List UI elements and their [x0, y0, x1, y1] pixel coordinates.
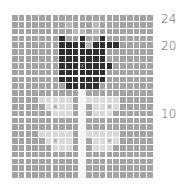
grid-cell — [53, 70, 59, 76]
grid-cell — [19, 172, 25, 178]
grid-cell — [80, 56, 86, 62]
grid-cell — [100, 49, 106, 55]
grid-cell — [19, 138, 25, 144]
grid-cell — [39, 131, 45, 137]
grid-cell — [147, 90, 153, 96]
grid-cell — [53, 124, 59, 130]
grid-cell — [59, 97, 65, 103]
grid-cell — [120, 83, 126, 89]
grid-cell — [93, 70, 99, 76]
grid-cell — [66, 138, 72, 144]
grid-cell — [26, 63, 32, 69]
grid-cell — [73, 77, 79, 83]
grid-cell: × — [107, 138, 113, 144]
grid-cell — [59, 49, 65, 55]
grid-cell — [59, 165, 65, 171]
grid-cell — [113, 124, 119, 130]
grid-cell — [107, 49, 113, 55]
grid-cell — [59, 15, 65, 21]
grid-cell — [73, 83, 79, 89]
grid-cell — [134, 165, 140, 171]
grid-cell — [46, 29, 52, 35]
grid-cell — [12, 90, 18, 96]
grid-cell — [39, 111, 45, 117]
grid-cell — [140, 172, 146, 178]
cross-mark-icon: × — [53, 104, 59, 110]
grid-cell — [32, 70, 38, 76]
grid-cell — [12, 159, 18, 165]
grid-cell — [66, 63, 72, 69]
grid-cell — [66, 152, 72, 158]
grid-cell — [73, 29, 79, 35]
grid-cell — [73, 159, 79, 165]
grid-cell — [46, 159, 52, 165]
grid-cell — [12, 97, 18, 103]
grid-cell — [127, 63, 133, 69]
grid-cell — [113, 131, 119, 137]
grid-cell — [113, 49, 119, 55]
grid-cell — [120, 63, 126, 69]
grid-cell — [86, 104, 92, 110]
grid-cell — [86, 152, 92, 158]
grid-cell — [53, 145, 59, 151]
grid-cell — [107, 145, 113, 151]
grid-cell — [26, 165, 32, 171]
grid-cell — [39, 42, 45, 48]
grid-cell — [113, 111, 119, 117]
grid-cell — [73, 104, 79, 110]
grid-cell — [147, 42, 153, 48]
grid-cell — [120, 172, 126, 178]
grid-cell — [53, 131, 59, 137]
grid-cell — [66, 145, 72, 151]
grid-cell — [12, 36, 18, 42]
grid-cell — [26, 104, 32, 110]
grid-cell — [140, 63, 146, 69]
grid-cell — [107, 77, 113, 83]
grid-cell — [127, 159, 133, 165]
grid-cell — [59, 159, 65, 165]
grid-cell — [113, 42, 119, 48]
grid-cell — [53, 15, 59, 21]
grid-cell — [39, 138, 45, 144]
grid-cell — [53, 29, 59, 35]
grid-cell — [100, 77, 106, 83]
grid-cell — [39, 172, 45, 178]
grid-cell — [73, 49, 79, 55]
grid-cell: × — [53, 104, 59, 110]
grid-cell — [46, 165, 52, 171]
grid-cell — [19, 83, 25, 89]
grid-cell — [19, 22, 25, 28]
grid-cell — [113, 159, 119, 165]
grid-cell — [93, 111, 99, 117]
grid-cell — [86, 49, 92, 55]
grid-cell — [59, 118, 65, 124]
grid-cell — [93, 36, 99, 42]
grid-cell — [80, 42, 86, 48]
grid-cell — [127, 77, 133, 83]
grid-cell — [93, 77, 99, 83]
grid-cell — [59, 56, 65, 62]
grid-cell — [80, 145, 86, 151]
grid-cell — [26, 90, 32, 96]
grid-cell — [93, 124, 99, 130]
grid-cell — [80, 22, 86, 28]
grid-cell — [86, 90, 92, 96]
grid-cell — [127, 49, 133, 55]
grid-cell — [26, 118, 32, 124]
grid-cell — [32, 29, 38, 35]
grid-cell — [32, 42, 38, 48]
grid-cell — [140, 111, 146, 117]
grid-cell — [26, 152, 32, 158]
grid-cell — [26, 29, 32, 35]
grid-cell — [140, 90, 146, 96]
grid-cell — [147, 118, 153, 124]
grid-cell — [59, 22, 65, 28]
grid-cell — [140, 145, 146, 151]
grid-cell — [107, 97, 113, 103]
grid-cell — [93, 63, 99, 69]
grid-cell — [86, 77, 92, 83]
grid-cell — [12, 131, 18, 137]
grid-cell — [12, 42, 18, 48]
grid-cell — [19, 124, 25, 130]
grid-cell — [80, 36, 86, 42]
